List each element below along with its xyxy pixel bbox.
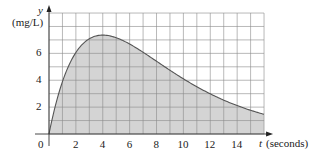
- y-axis-units: (mg/L): [12, 17, 43, 28]
- y-axis-symbol: y: [38, 5, 43, 16]
- x-axis-symbol: t: [259, 138, 262, 149]
- x-tick-label: 0: [38, 139, 44, 150]
- x-tick-label: 2: [73, 139, 79, 150]
- x-tick-label: 14: [231, 139, 242, 150]
- y-tick-label: 6: [36, 47, 42, 58]
- plot-area: [0, 0, 315, 154]
- y-tick-label: 2: [36, 101, 42, 112]
- y-axis-arrow-icon: [47, 5, 52, 12]
- y-tick-label: 4: [36, 74, 42, 85]
- x-axis-arrow-icon: [266, 132, 273, 137]
- x-tick-label: 6: [127, 139, 133, 150]
- x-tick-label: 8: [154, 139, 160, 150]
- x-tick-label: 12: [204, 139, 215, 150]
- x-axis-units: (seconds): [266, 138, 308, 149]
- x-tick-label: 10: [177, 139, 188, 150]
- x-tick-label: 4: [100, 139, 106, 150]
